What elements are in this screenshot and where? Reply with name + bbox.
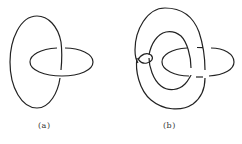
caption-a: (a) xyxy=(38,121,51,130)
panel-b: (b) xyxy=(121,0,242,144)
panel-a: (a) xyxy=(0,0,121,144)
twisted-loop-link-diagram xyxy=(121,0,242,144)
caption-b: (b) xyxy=(163,121,176,130)
hopf-link-diagram xyxy=(0,0,121,144)
